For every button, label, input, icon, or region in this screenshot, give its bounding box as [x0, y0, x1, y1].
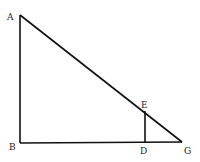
segment-bg: [20, 142, 182, 143]
label-a: A: [6, 12, 14, 22]
label-d: D: [140, 146, 147, 156]
segment-ag: [20, 15, 182, 142]
label-g: G: [184, 146, 191, 156]
triangle-diagram: A B D E G: [0, 0, 200, 162]
label-e: E: [141, 100, 148, 110]
label-b: B: [9, 142, 16, 152]
